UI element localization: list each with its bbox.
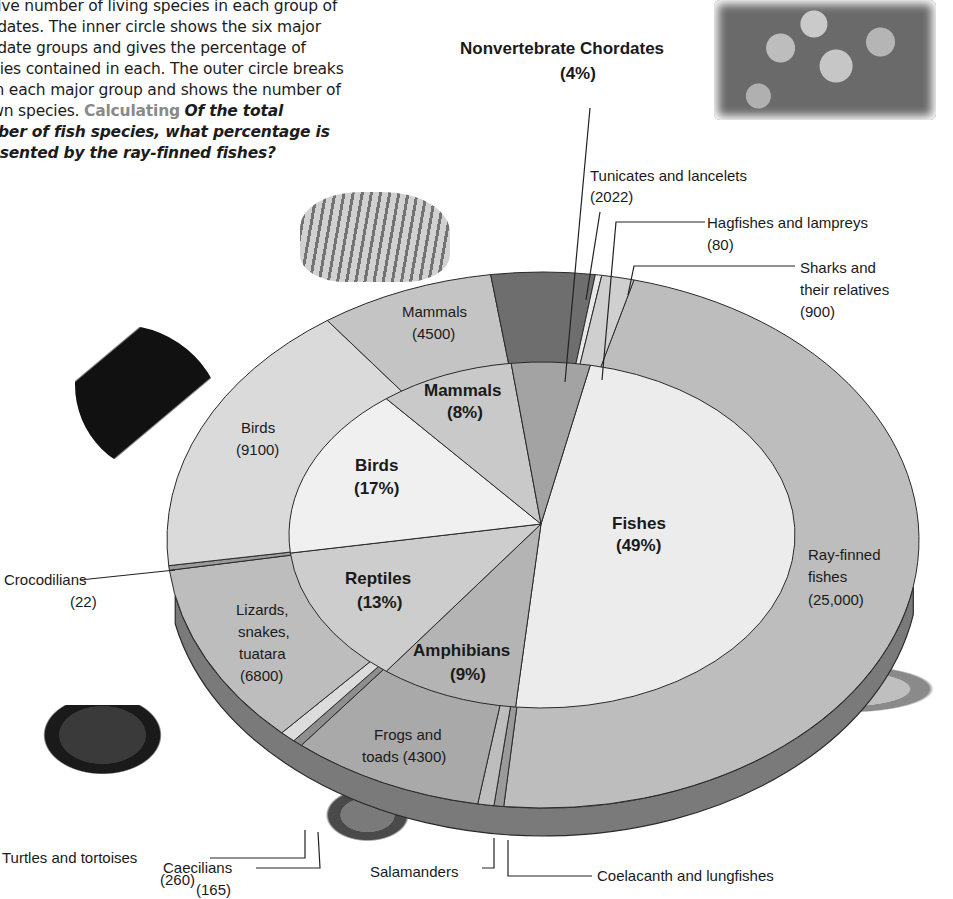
leader-salamanders [482, 838, 494, 868]
label-hagfishes: Hagfishes and lampreys [707, 213, 868, 232]
label-birds-inner-pct: (17%) [354, 478, 399, 499]
label-rayfinned-count: (25,000) [808, 590, 864, 609]
label-crocodilians: Crocodilians [4, 570, 87, 589]
label-tunicates-count: (2022) [590, 187, 633, 206]
label-sharks-count: (900) [800, 302, 835, 321]
label-lizards-line3: tuatara [239, 644, 286, 663]
label-turtles: Turtles and tortoises [2, 848, 137, 867]
label-nonvertebrate-pct: (4%) [560, 63, 596, 84]
label-mammals-outer: Mammals [402, 302, 467, 321]
label-reptiles-inner: Reptiles [345, 568, 411, 589]
label-birds-outer: Birds [241, 418, 275, 437]
label-sharks-line1: Sharks and [800, 258, 876, 277]
label-mammals-inner: Mammals [424, 380, 501, 401]
leader-crocodilians [80, 570, 175, 580]
label-birds-outer-count: (9100) [236, 440, 279, 459]
leader-caecilians [256, 832, 320, 868]
label-mammals-outer-count: (4500) [412, 324, 455, 343]
label-lizards-line1: Lizards, [236, 600, 289, 619]
label-hagfishes-count: (80) [707, 235, 734, 254]
label-fishes-inner: Fishes [612, 513, 666, 534]
label-caecilians-count: (165) [196, 880, 231, 899]
label-lizards-line2: snakes, [238, 622, 290, 641]
label-rayfinned-line1: Ray-finned [808, 545, 881, 564]
label-caecilians: Caecilians [163, 858, 232, 877]
label-mammals-inner-pct: (8%) [447, 402, 483, 423]
leader-coelacanth [508, 840, 592, 876]
label-nonvertebrate-title: Nonvertebrate Chordates [460, 38, 664, 59]
inner-ring [289, 362, 795, 708]
label-sharks-line2: their relatives [800, 280, 889, 299]
label-fishes-inner-pct: (49%) [616, 535, 661, 556]
label-reptiles-inner-pct: (13%) [357, 592, 402, 613]
label-frogs-line2: toads (4300) [362, 747, 446, 766]
label-coelacanth: Coelacanth and lungfishes [597, 866, 774, 885]
label-amphibians-inner-pct: (9%) [450, 664, 486, 685]
label-amphibians-inner: Amphibians [413, 640, 510, 661]
label-rayfinned-line2: fishes [808, 567, 847, 586]
leader-turtles [210, 830, 305, 858]
label-tunicates: Tunicates and lancelets [590, 166, 747, 185]
label-lizards-count: (6800) [240, 666, 283, 685]
label-frogs-line1: Frogs and [374, 725, 442, 744]
label-salamanders: Salamanders [370, 862, 458, 881]
label-crocodilians-count: (22) [70, 592, 97, 611]
label-birds-inner: Birds [355, 455, 398, 476]
